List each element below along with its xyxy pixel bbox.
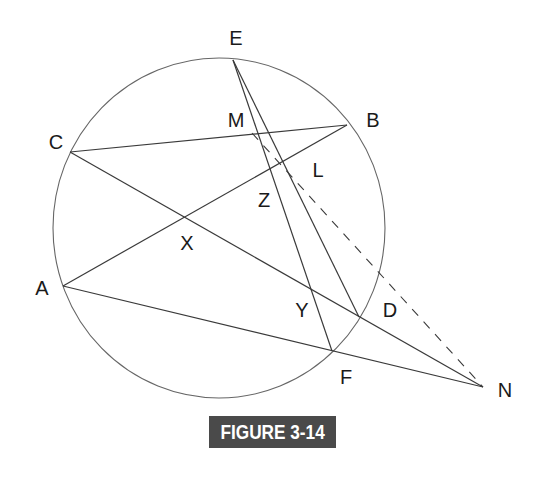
label-n: N (498, 379, 512, 401)
segment-e-f (233, 60, 332, 351)
label-c: C (49, 131, 63, 153)
label-z: Z (258, 189, 270, 211)
figure-caption-badge: FIGURE 3-14 (209, 416, 336, 448)
figure-caption: FIGURE 3-14 (220, 420, 324, 444)
label-m: M (228, 109, 245, 131)
label-b: B (366, 109, 379, 131)
segment-m-n-dashed (252, 133, 483, 387)
circle (53, 58, 385, 398)
geometry-diagram: E M B C L Z X A Y D F N (0, 0, 537, 477)
label-f: F (340, 366, 352, 388)
label-e: E (229, 27, 242, 49)
label-y: Y (295, 299, 308, 321)
segment-e-d (233, 60, 359, 317)
segment-a-n (63, 286, 483, 387)
label-a: A (35, 277, 49, 299)
label-d: D (383, 299, 397, 321)
label-x: X (180, 232, 193, 254)
label-l: L (312, 159, 323, 181)
